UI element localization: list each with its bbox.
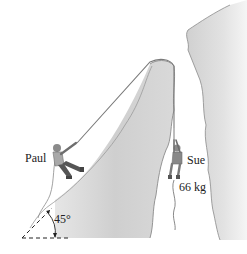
diagram-graphic: [0, 0, 247, 254]
angle-label: 45°: [54, 213, 71, 225]
main-rock: [55, 61, 175, 239]
climbing-diagram: Paul Sue 66 kg 45°: [0, 0, 247, 254]
sue-mass-label: 66 kg: [179, 181, 206, 193]
sue-label: Sue: [187, 154, 205, 166]
right-cliff: [187, 0, 247, 240]
paul-figure: [53, 143, 84, 179]
paul-label: Paul: [25, 152, 46, 164]
rope-tail: [173, 180, 175, 230]
